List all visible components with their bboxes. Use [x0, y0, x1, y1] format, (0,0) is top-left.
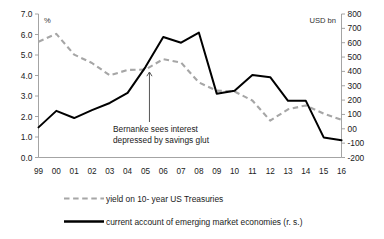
left-tick-label: 5.0 — [21, 50, 33, 60]
right-tick-label: 500 — [348, 52, 362, 62]
x-tick-label: 03 — [105, 167, 115, 176]
left-axis-ticks: 0.01.02.03.04.05.06.07.0 — [21, 9, 39, 163]
x-tick-label: 12 — [266, 167, 276, 176]
chart-legend: yield on 10- year US Treasuries current … — [64, 194, 303, 227]
right-tick-label: 300 — [348, 81, 362, 91]
right-tick-label: 00 — [348, 124, 358, 134]
right-axis-unit-label: USD bn — [309, 16, 336, 25]
legend-label-current-account: current account of emerging market econo… — [106, 217, 303, 227]
left-tick-label: 1.0 — [21, 132, 33, 142]
left-tick-label: 4.0 — [21, 71, 33, 81]
x-tick-label: 00 — [52, 167, 62, 176]
left-tick-label: 7.0 — [21, 9, 33, 19]
x-tick-label: 16 — [337, 167, 347, 176]
left-tick-label: 6.0 — [21, 30, 33, 40]
x-tick-label: 15 — [319, 167, 329, 176]
right-axis-ticks: -200-10000100200300400500600700800 — [342, 9, 365, 163]
right-tick-label: 800 — [348, 9, 362, 19]
annotation-bernanke: Bernanke sees interest depressed by savi… — [113, 72, 210, 145]
x-tick-label: 08 — [194, 167, 204, 176]
right-tick-label: 400 — [348, 66, 362, 76]
x-tick-label: 13 — [283, 167, 293, 176]
x-tick-label: 05 — [141, 167, 151, 176]
x-tick-label: 07 — [177, 167, 187, 176]
right-tick-label: 700 — [348, 23, 362, 33]
x-tick-label: 09 — [212, 167, 222, 176]
annotation-line-1: Bernanke sees interest — [113, 124, 199, 134]
x-tick-label: 06 — [159, 167, 169, 176]
right-tick-label: -200 — [348, 153, 365, 163]
x-tick-label: 99 — [34, 167, 44, 176]
x-tick-label: 04 — [123, 167, 133, 176]
chart-container: 0.01.02.03.04.05.06.07.0 -200-1000010020… — [0, 0, 384, 239]
annotation-line-2: depressed by savings glut — [113, 135, 210, 145]
legend-label-yield: yield on 10- year US Treasuries — [106, 194, 223, 204]
x-tick-label: 11 — [248, 167, 257, 176]
right-tick-label: 200 — [348, 95, 362, 105]
right-tick-label: -100 — [348, 138, 365, 148]
x-axis-ticks: 990001020304050607080910111213141516 — [34, 167, 347, 176]
right-tick-label: 100 — [348, 109, 362, 119]
left-tick-label: 0.0 — [21, 153, 33, 163]
right-tick-label: 600 — [348, 38, 362, 48]
left-tick-label: 2.0 — [21, 112, 33, 122]
x-tick-label: 14 — [301, 167, 311, 176]
left-axis-unit-label: % — [44, 16, 51, 25]
left-tick-label: 3.0 — [21, 91, 33, 101]
x-tick-label: 02 — [87, 167, 97, 176]
series-line-yield-10y-treasuries — [39, 34, 342, 121]
x-tick-label: 10 — [230, 167, 240, 176]
line-chart: 0.01.02.03.04.05.06.07.0 -200-1000010020… — [0, 0, 384, 239]
x-tick-label: 01 — [70, 167, 80, 176]
